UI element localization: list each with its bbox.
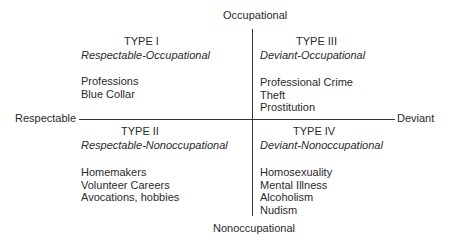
quadrant-2-type: TYPE II <box>121 125 159 137</box>
axis-label-bottom: Nonoccupational <box>213 222 295 234</box>
list-item: Homemakers <box>81 166 179 179</box>
list-item: Homosexuality <box>260 166 332 179</box>
axis-label-top: Occupational <box>223 9 287 21</box>
quadrant-3-list: Professional Crime Theft Prostitution <box>260 76 353 114</box>
list-item: Theft <box>260 89 353 102</box>
quadrant-1-list: Professions Blue Collar <box>81 75 138 100</box>
list-item: Professions <box>81 75 138 88</box>
quadrant-2-list: Homemakers Volunteer Careers Avocations,… <box>81 166 179 204</box>
quadrant-1-subtitle: Respectable-Occupational <box>81 49 210 61</box>
list-item: Avocations, hobbies <box>81 191 179 204</box>
quadrant-2-subtitle: Respectable-Nonoccupational <box>81 139 228 151</box>
list-item: Nudism <box>260 204 332 217</box>
axis-label-right: Deviant <box>397 112 434 124</box>
list-item: Professional Crime <box>260 76 353 89</box>
vertical-axis-line <box>252 29 253 216</box>
quadrant-1-type: TYPE I <box>124 35 159 47</box>
list-item: Prostitution <box>260 101 353 114</box>
horizontal-axis-line <box>79 119 395 120</box>
list-item: Mental Illness <box>260 179 332 192</box>
axis-label-left: Respectable <box>15 112 76 124</box>
quadrant-4-list: Homosexuality Mental Illness Alcoholism … <box>260 166 332 217</box>
quadrant-3-type: TYPE III <box>296 35 337 47</box>
list-item: Volunteer Careers <box>81 179 179 192</box>
quadrant-3-subtitle: Deviant-Occupational <box>260 49 365 61</box>
list-item: Blue Collar <box>81 88 138 101</box>
quadrant-4-type: TYPE IV <box>293 125 335 137</box>
list-item: Alcoholism <box>260 191 332 204</box>
quadrant-4-subtitle: Deviant-Nonoccupational <box>260 139 383 151</box>
